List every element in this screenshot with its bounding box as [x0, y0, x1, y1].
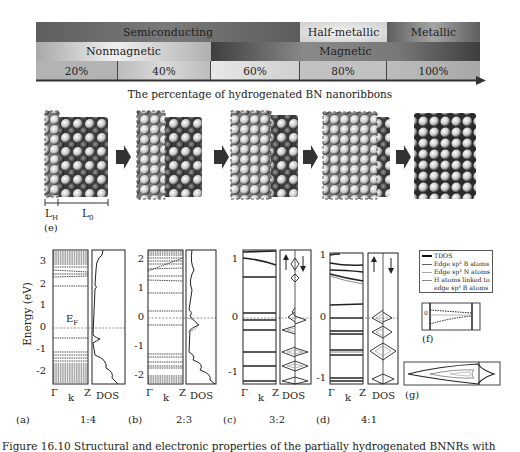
inset-g-label: (g) — [405, 389, 419, 400]
figure-caption: Figure 16.10 Structural and electronic p… — [2, 440, 495, 452]
